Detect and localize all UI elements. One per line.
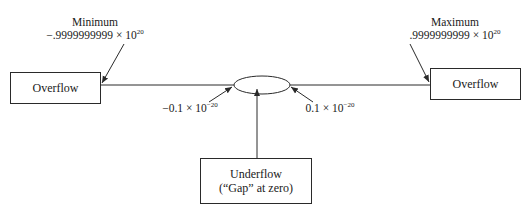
zero-gap-ellipse [234, 76, 290, 94]
overflow-left-label: Overflow [33, 81, 79, 95]
underflow-box: Underflow (“Gap” at zero) [200, 158, 312, 204]
overflow-right-label: Overflow [453, 77, 499, 91]
pos-small-arrow [291, 87, 313, 102]
minimum-value: −.9999999999 × 1020 [40, 29, 150, 42]
minimum-arrow [102, 44, 124, 83]
overflow-underflow-diagram: Minimum −.9999999999 × 1020 Maximum .999… [0, 0, 532, 219]
neg-small-label: −0.1 × 10−20 [150, 102, 230, 115]
minimum-title: Minimum [40, 16, 150, 29]
maximum-label: Maximum .9999999999 × 1020 [400, 16, 510, 42]
underflow-label: Underflow [230, 167, 282, 181]
neg-small-arrow [209, 87, 232, 102]
pos-small-label: 0.1 × 10−20 [290, 102, 370, 115]
underflow-gap-label: (“Gap” at zero) [219, 181, 293, 195]
maximum-value: .9999999999 × 1020 [400, 29, 510, 42]
overflow-box-left: Overflow [10, 72, 101, 104]
minimum-label: Minimum −.9999999999 × 1020 [40, 16, 150, 42]
maximum-arrow [410, 44, 429, 82]
overflow-box-right: Overflow [430, 68, 521, 100]
